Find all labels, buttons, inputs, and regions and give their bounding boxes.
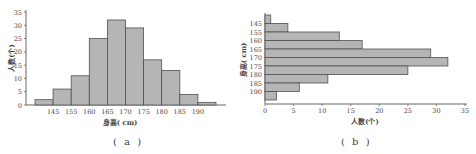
histogram-b-plot: 0510152025303514515516016517017518018519… <box>236 0 476 154</box>
y-tick-label: 180 <box>250 71 262 79</box>
histogram-bar <box>265 66 408 75</box>
y-tick-label: 165 <box>250 46 262 54</box>
x-tick-label: 185 <box>174 108 186 116</box>
histogram-bar <box>265 41 362 50</box>
histogram-bar <box>265 15 271 24</box>
y-tick-label: 175 <box>250 63 262 71</box>
histogram-bar <box>162 70 180 105</box>
histogram-bar <box>265 83 299 92</box>
x-tick-label: 155 <box>65 108 77 116</box>
histogram-bar <box>35 100 53 105</box>
y-tick-label: 170 <box>250 54 262 62</box>
histogram-b: 0510152025303514515516016517017518018519… <box>236 0 476 154</box>
x-tick-label: 165 <box>101 108 113 116</box>
x-tick-label: 25 <box>404 107 412 115</box>
y-tick-label: 10 <box>14 75 22 83</box>
histogram-bar <box>265 92 276 101</box>
histogram-bar <box>89 39 107 105</box>
x-tick-label: 10 <box>318 107 326 115</box>
y-axis-label: 身高( cm) <box>239 43 248 79</box>
histogram-bar <box>71 76 89 105</box>
histogram-a: 0510152025303514515516016517017518018519… <box>0 0 236 154</box>
x-tick-label: 35 <box>461 107 469 115</box>
x-tick-label: 145 <box>47 108 59 116</box>
x-tick-label: 160 <box>83 108 95 116</box>
y-tick-label: 190 <box>250 88 262 96</box>
y-tick-label: 185 <box>250 80 262 88</box>
y-tick-label: 5 <box>18 88 22 96</box>
histogram-bar <box>144 60 162 105</box>
y-tick-label: 145 <box>250 20 262 28</box>
histogram-bar <box>107 20 125 105</box>
x-axis-label: 身高( cm) <box>102 118 138 127</box>
x-tick-label: 0 <box>263 107 267 115</box>
y-axis-label: 人数(个) <box>7 44 16 72</box>
x-tick-label: 30 <box>432 107 440 115</box>
y-tick-label: 0 <box>18 102 22 110</box>
histogram-bar <box>265 58 448 67</box>
y-tick-label: 30 <box>14 22 22 30</box>
x-tick-label: 190 <box>192 108 204 116</box>
x-tick-label: 20 <box>375 107 383 115</box>
x-tick-label: 180 <box>155 108 167 116</box>
caption-a: ( a ) <box>113 136 143 147</box>
x-tick-label: 15 <box>347 107 355 115</box>
histogram-bar <box>265 24 288 33</box>
x-tick-label: 170 <box>119 108 131 116</box>
histogram-bar <box>53 89 71 105</box>
histogram-bar <box>198 102 216 105</box>
caption-b: ( b ) <box>341 136 372 147</box>
histogram-a-plot: 0510152025303514515516016517017518018519… <box>0 0 236 154</box>
x-tick-label: 5 <box>292 107 296 115</box>
y-tick-label: 35 <box>14 9 22 17</box>
histogram-bar <box>265 75 328 84</box>
histogram-bar <box>180 94 198 105</box>
y-tick-label: 25 <box>14 35 22 43</box>
x-axis-label: 人数(个) <box>351 117 379 126</box>
histogram-bar <box>265 49 431 58</box>
histogram-bar <box>265 32 339 41</box>
y-tick-label: 160 <box>250 37 262 45</box>
x-tick-label: 175 <box>137 108 149 116</box>
y-tick-label: 155 <box>250 29 262 37</box>
histogram-bar <box>126 28 144 105</box>
